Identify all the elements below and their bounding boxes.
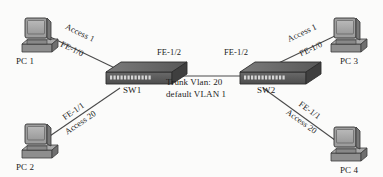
pc4-label: PC 4 xyxy=(340,166,358,175)
pc3-label: PC 3 xyxy=(340,57,358,66)
sw1-trunk-port-label: FE-1/2 xyxy=(157,48,181,57)
trunk-vlan-line2: default VLAN 1 xyxy=(166,90,226,99)
network-diagram: PC 1 PC 2 PC 3 PC 4 SW1 SW2 FE-1/2 FE-1/… xyxy=(0,0,383,177)
pc4-icon xyxy=(331,127,367,161)
sw2-icon xyxy=(240,62,321,84)
sw1-label: SW1 xyxy=(123,86,141,95)
trunk-vlan-line1: Trunk Vlan: 20 xyxy=(166,78,222,87)
pc1-label: PC 1 xyxy=(16,57,34,66)
pc2-icon xyxy=(22,124,58,158)
pc1-icon xyxy=(22,18,58,52)
pc3-icon xyxy=(331,18,367,52)
sw2-trunk-port-label: FE-1/2 xyxy=(224,48,248,57)
pc2-label: PC 2 xyxy=(16,163,34,172)
sw2-label: SW2 xyxy=(257,86,275,95)
